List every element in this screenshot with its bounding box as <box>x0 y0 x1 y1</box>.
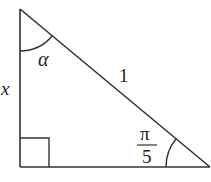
label-five: 5 <box>142 146 152 167</box>
triangle-diagram: x 1 α π 5 <box>0 0 211 182</box>
label-pi: π <box>140 123 150 144</box>
label-alpha: α <box>38 48 49 70</box>
angle-arc-bottom <box>166 139 176 167</box>
right-angle-marker <box>20 138 49 167</box>
label-hypotenuse: 1 <box>119 65 129 86</box>
label-x: x <box>0 78 10 99</box>
